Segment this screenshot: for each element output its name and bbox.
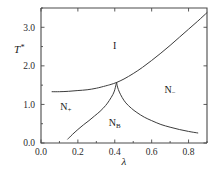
x-tick-label: 0.6 [146,147,158,157]
region-label-N+: N+ [60,101,71,114]
region-label-NB: NB [109,117,121,130]
chart-canvas: 0.00.20.40.60.80.01.02.03.0 IN+N−NB T*λ [0,0,220,169]
phase-boundary-curves [52,13,207,140]
phase-boundary-curve-0 [52,13,207,92]
x-tick-label: 0.8 [183,147,195,157]
region-label-N−: N− [165,84,176,97]
y-tick-label: 1.0 [23,100,35,110]
x-tick-label: 0.0 [35,147,47,157]
region-labels: IN+N−NB [60,40,175,130]
axis-spines-left-bottom [41,8,207,143]
axes [41,8,207,143]
y-axis-title: T* [14,43,24,55]
region-label-I: I [113,40,116,51]
phase-diagram-figure: 0.00.20.40.60.80.01.02.03.0 IN+N−NB T*λ [0,0,220,169]
y-tick-label: 0.0 [23,138,35,148]
x-axis-title: λ [121,155,127,167]
tick-marks [41,8,207,143]
y-tick-label: 3.0 [23,23,35,33]
y-tick-label: 2.0 [23,61,35,71]
axis-frame-top-right [41,8,207,143]
x-tick-label: 0.2 [72,147,84,157]
phase-boundary-curve-2 [117,82,198,133]
x-tick-label: 0.4 [109,147,121,157]
